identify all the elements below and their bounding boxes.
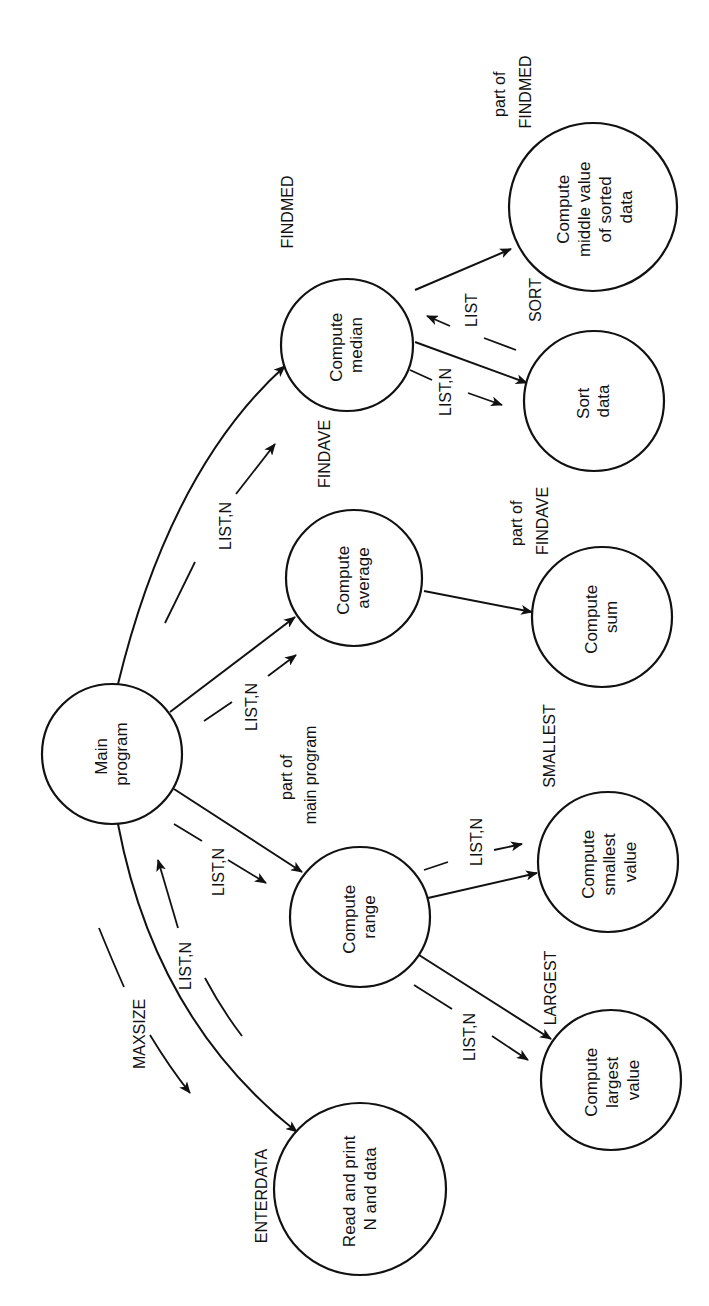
edge-range-smallest <box>428 873 537 898</box>
node-label: value <box>624 1060 643 1101</box>
svg-text:Compute median: Compute median <box>327 308 366 382</box>
node-label: Read and print <box>340 1135 359 1247</box>
edge-average-sum <box>424 591 532 612</box>
node-label: Compute <box>340 885 359 954</box>
node-compute-smallest[interactable]: Compute smallest value <box>538 792 678 932</box>
flow-label-range-largest: LIST,N <box>461 1013 478 1061</box>
flow-arrow <box>468 393 502 405</box>
node-label: program <box>112 722 131 785</box>
edge-main-average <box>170 617 295 712</box>
node-main-program[interactable]: Main program <box>42 684 182 824</box>
flow-arrow <box>427 316 450 326</box>
node-label: average <box>354 547 373 608</box>
node-label: Compute <box>554 175 573 244</box>
node-read-and-print[interactable]: Read and print N and data <box>274 1103 446 1275</box>
flow-arrow <box>492 1036 528 1060</box>
flow-arrow <box>165 562 195 623</box>
flow-arrow <box>410 370 432 380</box>
node-label: Compute <box>582 1048 601 1117</box>
node-compute-sum[interactable]: Compute sum <box>532 547 672 687</box>
node-label: range <box>360 895 379 938</box>
node-label: data <box>617 190 636 224</box>
flow-label-main-range: LIST,N <box>210 848 227 896</box>
flow-arrow <box>494 844 522 850</box>
module-label-part-of-findave: part of FINDAVE <box>508 487 551 555</box>
flow-arrow <box>236 444 275 494</box>
edge-main-range <box>174 789 302 872</box>
node-compute-middle-value[interactable]: Compute middle value of sorted data <box>509 123 677 291</box>
module-label-part-of-findmed: part of FINDMED <box>491 56 534 129</box>
flow-label-enterdata-main: LIST,N <box>177 942 194 990</box>
node-label: data <box>594 384 613 418</box>
flow-arrow <box>174 824 202 841</box>
edge-main-median <box>118 366 285 684</box>
flow-arrow <box>158 860 178 928</box>
edge-main-enterdata <box>118 824 297 1132</box>
module-label-enterdata: ENTERDATA <box>253 1148 270 1243</box>
flow-label-main-median: LIST,N <box>217 502 234 550</box>
node-label: value <box>621 842 640 883</box>
edge-median-middle <box>415 249 511 290</box>
module-label-smallest: SMALLEST <box>541 704 558 788</box>
svg-text:Sort data: Sort data <box>574 383 613 419</box>
node-compute-median[interactable]: Compute median <box>281 279 413 411</box>
node-label: sum <box>602 601 621 633</box>
edge-range-largest <box>419 955 551 1039</box>
module-label-sort: SORT <box>527 278 544 322</box>
module-label-part-of-main-program: part of main program <box>278 726 319 825</box>
flow-arrow <box>424 862 448 870</box>
flow-label-sort-median: LIST <box>463 293 480 327</box>
module-label-largest: LARGEST <box>542 950 559 1025</box>
flow-arrow <box>484 338 516 350</box>
node-label: Sort <box>574 388 593 419</box>
node-label: Compute <box>582 585 601 654</box>
flow-arrow <box>414 985 452 1009</box>
flow-label-main-average: LIST,N <box>243 683 260 731</box>
flow-arrow <box>204 702 232 721</box>
node-label: smallest <box>600 833 619 896</box>
svg-text:Compute average: Compute average <box>334 541 373 615</box>
data-flows <box>99 316 528 1093</box>
node-label: median <box>347 317 366 373</box>
module-label-findave: FINDAVE <box>316 420 333 488</box>
node-label: Compute <box>334 546 353 615</box>
flow-arrow <box>205 978 242 1036</box>
flow-arrow <box>268 655 296 676</box>
node-label: Compute <box>327 313 346 382</box>
flow-label-median-sort: LIST,N <box>437 368 454 416</box>
flow-label-range-smallest: LIST,N <box>468 818 485 866</box>
node-label: of sorted <box>596 176 615 242</box>
flow-label-maxsize: MAXSIZE <box>131 999 148 1069</box>
node-sort-data[interactable]: Sort data <box>524 331 664 471</box>
node-label: Compute <box>579 830 598 899</box>
node-compute-largest[interactable]: Compute largest value <box>541 1010 681 1150</box>
flow-arrow <box>228 860 266 883</box>
node-label: N and data <box>361 1147 380 1231</box>
node-label: Main <box>92 738 111 775</box>
node-label: middle value <box>575 162 594 257</box>
node-label: largest <box>603 1057 622 1108</box>
flow-arrow <box>150 1035 190 1093</box>
node-compute-average[interactable]: Compute average <box>286 510 422 646</box>
node-compute-range[interactable]: Compute range <box>290 847 430 987</box>
module-label-findmed: FINDMED <box>279 176 296 249</box>
flow-arrow <box>99 928 124 987</box>
structure-chart-canvas: Main program Compute median Compute midd… <box>0 0 709 1306</box>
